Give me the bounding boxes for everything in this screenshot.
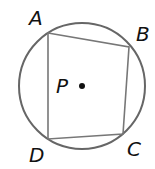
center-point <box>79 83 85 89</box>
center-label: P <box>56 74 69 98</box>
inscribed-quadrilateral-diagram: P A B C D <box>0 0 155 169</box>
vertex-label-a: A <box>27 6 43 30</box>
vertex-label-b: B <box>136 22 150 46</box>
vertex-label-c: C <box>127 137 141 161</box>
vertex-label-d: D <box>29 143 44 167</box>
